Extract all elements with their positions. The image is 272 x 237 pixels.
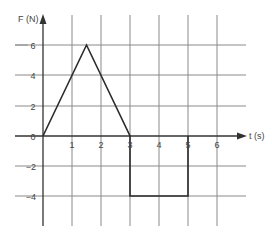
x-tick-label: 3 <box>127 140 132 150</box>
x-tick-label: 4 <box>156 140 161 150</box>
y-tick-label: 6 <box>30 41 35 51</box>
y-tick-label: −2 <box>26 162 36 172</box>
y-axis-arrow-icon <box>40 14 47 24</box>
force-time-chart: F (N) t (s) 6 4 2 0 −2 −4 1 2 3 4 5 6 <box>0 0 272 237</box>
y-axis-label: F (N) <box>18 14 39 24</box>
force-series-line <box>43 45 188 196</box>
y-tick-label: 0 <box>30 132 35 142</box>
x-axis-label: t (s) <box>249 131 265 141</box>
x-tick-label: 6 <box>214 140 219 150</box>
x-tick-label: 5 <box>185 140 190 150</box>
y-tick-label: 2 <box>30 102 35 112</box>
x-tick-label: 1 <box>69 140 74 150</box>
vertical-gridlines <box>72 15 217 226</box>
x-axis-arrow-icon <box>237 133 247 140</box>
y-tick-label: −4 <box>26 192 36 202</box>
y-tick-label: 4 <box>30 71 35 81</box>
x-axis <box>15 133 247 140</box>
x-tick-label: 2 <box>98 140 103 150</box>
y-axis <box>40 14 47 226</box>
